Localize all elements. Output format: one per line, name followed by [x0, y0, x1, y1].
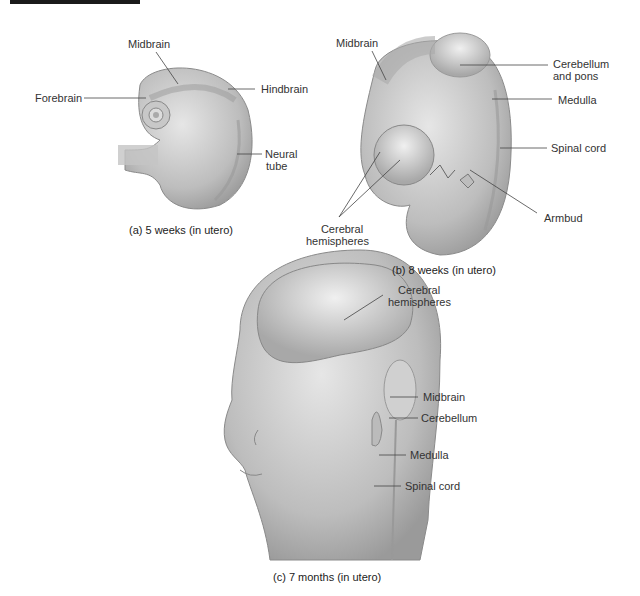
label-a-midbrain: Midbrain — [128, 38, 170, 51]
caption-a: (a) 5 weeks (in utero) — [129, 224, 233, 236]
caption-c: (c) 7 months (in utero) — [273, 571, 381, 583]
label-a-neural-tube-line2: tube — [266, 160, 287, 173]
label-c-medulla: Medulla — [410, 449, 449, 462]
label-c-cerebellum: Cerebellum — [421, 412, 477, 425]
brain-development-illustration — [0, 0, 640, 596]
label-a-hindbrain: Hindbrain — [261, 83, 308, 96]
label-b-cerebral-line2: hemispheres — [306, 235, 369, 248]
label-c-cerebral-line2: hemispheres — [388, 296, 451, 309]
label-b-armbud: Armbud — [544, 212, 583, 225]
label-b-midbrain: Midbrain — [336, 37, 378, 50]
label-b-cerebellum-pons-line2: and pons — [553, 70, 598, 83]
label-b-spinal-cord: Spinal cord — [551, 142, 606, 155]
label-b-medulla: Medulla — [558, 94, 597, 107]
label-a-forebrain: Forebrain — [35, 92, 82, 105]
label-c-midbrain: Midbrain — [423, 391, 465, 404]
embryo-8-weeks — [361, 33, 511, 255]
label-c-spinal-cord: Spinal cord — [405, 480, 460, 493]
caption-b: (b) 8 weeks (in utero) — [392, 264, 496, 276]
